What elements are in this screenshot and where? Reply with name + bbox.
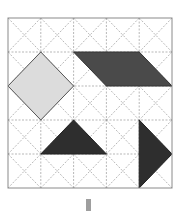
dark-parallelogram-shape bbox=[74, 52, 172, 86]
dark-triangle-right-shape bbox=[139, 120, 172, 188]
down-bar-indicator bbox=[86, 199, 91, 211]
dark-triangle-left-shape bbox=[41, 120, 107, 154]
grid-diagram bbox=[0, 0, 190, 211]
